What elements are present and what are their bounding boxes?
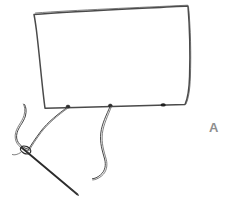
left-thread-second-strand — [29, 108, 67, 150]
line-drawing-figure — [0, 0, 234, 207]
knot-mark-icon — [161, 103, 166, 106]
needle-tip — [68, 187, 79, 196]
right-thread-second-strand — [93, 107, 112, 180]
panel-label: A — [209, 120, 218, 135]
patch-top-edge-sketch-line — [36, 5, 188, 13]
left-thread-tail — [12, 153, 20, 155]
thread-icon — [29, 107, 69, 150]
fabric-patch-icon — [34, 6, 190, 108]
figure-canvas: A — [0, 0, 234, 207]
